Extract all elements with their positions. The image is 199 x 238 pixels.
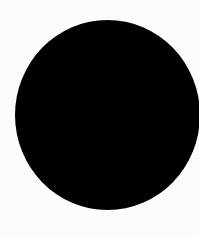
black-circle [15, 20, 199, 210]
canvas [0, 0, 199, 238]
